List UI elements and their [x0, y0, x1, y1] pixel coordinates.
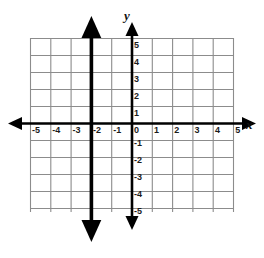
- y-tick-label--5: -5: [134, 206, 142, 216]
- x-axis-label: x: [245, 117, 253, 132]
- y-tick-label-3: 3: [134, 74, 139, 84]
- y-tick-label--1: -1: [134, 138, 142, 148]
- y-tick-label-1: 1: [134, 108, 139, 118]
- y-axis-label: y: [122, 8, 130, 23]
- coordinate-grid-figure: -5 -4 -3 -2 -1 0 1 2 3 4 5 5 4 3 2 1 -1 …: [0, 0, 264, 258]
- y-tick-label-4: 4: [134, 57, 139, 67]
- x-tick-label-3: 3: [195, 125, 200, 135]
- x-tick-label--3: -3: [73, 125, 81, 135]
- y-tick-label--4: -4: [134, 189, 142, 199]
- x-tick-label-5: 5: [235, 125, 240, 135]
- x-tick-label--2: -2: [93, 125, 101, 135]
- x-tick-label-4: 4: [215, 125, 220, 135]
- x-tick-label--5: -5: [32, 125, 40, 135]
- x-tick-label-1: 1: [154, 125, 159, 135]
- y-tick-label--2: -2: [134, 155, 142, 165]
- y-tick-label-5: 5: [134, 40, 139, 50]
- x-tick-label-0: 0: [134, 125, 139, 135]
- x-tick-label--4: -4: [52, 125, 60, 135]
- coordinate-plane-svg: -5 -4 -3 -2 -1 0 1 2 3 4 5 5 4 3 2 1 -1 …: [0, 0, 264, 258]
- x-tick-label-2: 2: [174, 125, 179, 135]
- y-tick-label-2: 2: [134, 91, 139, 101]
- x-tick-label--1: -1: [113, 125, 121, 135]
- y-tick-label--3: -3: [134, 172, 142, 182]
